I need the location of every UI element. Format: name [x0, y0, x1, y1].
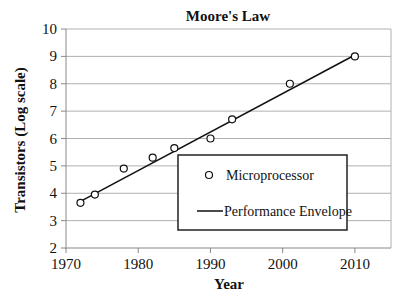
x-tick-label: 1990: [195, 256, 225, 272]
chart-title: Moore's Law: [186, 8, 270, 24]
legend-marker-circle-icon: [206, 172, 213, 179]
x-axis-label: Year: [214, 276, 244, 292]
x-tick-label: 1970: [51, 256, 81, 272]
data-point-circle-icon: [207, 135, 214, 142]
x-tick-label: 2010: [340, 256, 370, 272]
data-point-circle-icon: [351, 53, 358, 60]
y-tick-label: 3: [50, 213, 58, 229]
y-tick-label: 10: [42, 21, 57, 37]
y-tick-label: 5: [50, 158, 58, 174]
data-point-circle-icon: [171, 145, 178, 152]
y-tick-label: 8: [50, 76, 58, 92]
y-tick-label: 2: [50, 240, 58, 256]
data-point-circle-icon: [120, 165, 127, 172]
data-point-circle-icon: [91, 191, 98, 198]
data-point-circle-icon: [286, 80, 293, 87]
x-tick-label: 2000: [268, 256, 298, 272]
legend-label-microprocessor: Microprocessor: [226, 168, 314, 183]
data-point-circle-icon: [229, 116, 236, 123]
x-tick-label: 1980: [123, 256, 153, 272]
y-tick-label: 4: [50, 185, 58, 201]
legend: Microprocessor Performance Envelope: [178, 155, 352, 230]
y-tick-label: 6: [50, 131, 58, 147]
data-point-circle-icon: [149, 154, 156, 161]
moores-law-chart: 2345678910 19701980199020002010 Moore's …: [0, 0, 408, 305]
y-tick-label: 7: [50, 103, 58, 119]
x-tick-labels: 19701980199020002010: [51, 256, 370, 272]
y-tick-labels: 2345678910: [42, 21, 58, 256]
y-axis-label: Transistors (Log scale): [12, 67, 29, 213]
y-tick-label: 9: [50, 48, 58, 64]
legend-label-performance-envelope: Performance Envelope: [224, 204, 352, 219]
data-point-circle-icon: [77, 199, 84, 206]
